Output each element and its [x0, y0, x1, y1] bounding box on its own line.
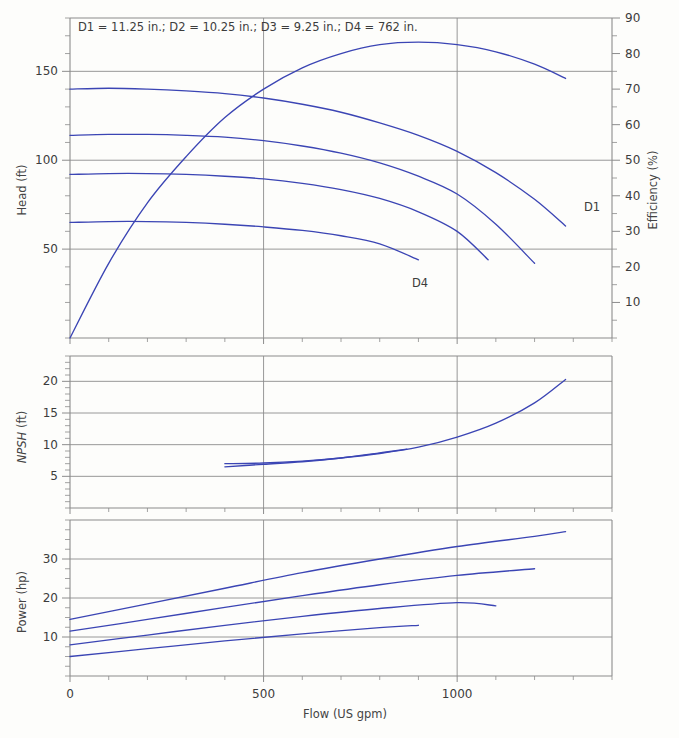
- y2-tick-label: 60: [625, 118, 640, 132]
- y2-tick-label: 10: [625, 295, 640, 309]
- y-tick-label: 50: [43, 242, 58, 256]
- y2-tick-label: 30: [625, 224, 640, 238]
- y2-tick-label: 50: [625, 153, 640, 167]
- curve-label-d4: D4: [412, 276, 428, 290]
- power-axis-title: Power (hp): [15, 571, 29, 633]
- head-axis-title: Head (ft): [15, 164, 29, 215]
- y2-tick-label: 80: [625, 47, 640, 61]
- y2-tick-label: 40: [625, 189, 640, 203]
- flow-axis-title: Flow (US gpm): [303, 707, 387, 721]
- x-tick-label: 500: [252, 687, 275, 701]
- npsh-axis-title: NPSH (ft): [15, 411, 29, 463]
- y-tick-label: 10: [43, 630, 58, 644]
- y-tick-label: 15: [43, 406, 58, 420]
- y-tick-label: 10: [43, 438, 58, 452]
- y-tick-label: 100: [35, 153, 58, 167]
- y-tick-label: 30: [43, 552, 58, 566]
- pump-performance-figure: 50100150102030405060708090 5101520 05001…: [0, 0, 679, 738]
- y-tick-label: 20: [43, 374, 58, 388]
- y2-tick-label: 90: [625, 11, 640, 25]
- chart-canvas: 50100150102030405060708090 5101520 05001…: [0, 0, 679, 738]
- curve-label-d1: D1: [584, 200, 600, 214]
- figure-background: [0, 0, 679, 738]
- x-tick-label: 1000: [442, 687, 473, 701]
- y-tick-label: 150: [35, 64, 58, 78]
- y2-tick-label: 20: [625, 260, 640, 274]
- x-tick-label: 0: [66, 687, 74, 701]
- y-tick-label: 5: [50, 469, 58, 483]
- impeller-diameter-note: D1 = 11.25 in.; D2 = 10.25 in.; D3 = 9.2…: [78, 20, 418, 34]
- y-tick-label: 20: [43, 591, 58, 605]
- efficiency-axis-title: Efficiency (%): [646, 151, 660, 230]
- y2-tick-label: 70: [625, 82, 640, 96]
